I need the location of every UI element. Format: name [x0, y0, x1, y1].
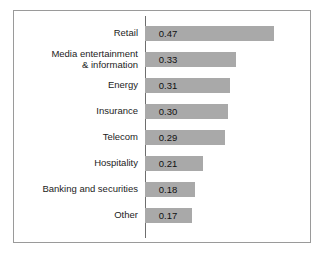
bar-track: 0.31 [143, 73, 310, 98]
bar-track: 0.18 [143, 177, 310, 202]
bar-value-label: 0.29 [145, 130, 191, 145]
bar-track: 0.47 [143, 21, 310, 46]
category-label: Insurance [14, 106, 143, 117]
bar-track: 0.29 [143, 125, 310, 150]
bar-value-label: 0.21 [145, 156, 191, 171]
bar-row: Banking and securities 0.18 [14, 177, 310, 202]
bar-row: Media entertainment & information 0.33 [14, 47, 310, 72]
bar-row: Hospitality 0.21 [14, 151, 310, 176]
bar-row: Other 0.17 [14, 203, 310, 228]
bar-track: 0.17 [143, 203, 310, 228]
category-label: Other [14, 210, 143, 221]
bar-value-label: 0.30 [145, 104, 191, 119]
category-label: Telecom [14, 132, 143, 143]
bar-row: Telecom 0.29 [14, 125, 310, 150]
bar-value-label: 0.18 [145, 182, 191, 197]
bar-row: Retail 0.47 [14, 21, 310, 46]
bar-value-label: 0.47 [145, 26, 191, 41]
chart-frame: Retail 0.47 Media entertainment & inform… [13, 10, 311, 243]
bar-value-label: 0.31 [145, 78, 191, 93]
bar-value-label: 0.33 [145, 52, 191, 67]
category-label: Banking and securities [14, 184, 143, 195]
bar-value-label: 0.17 [145, 208, 191, 223]
category-label: Hospitality [14, 158, 143, 169]
bar-track: 0.21 [143, 151, 310, 176]
bar-row: Insurance 0.30 [14, 99, 310, 124]
bar-track: 0.30 [143, 99, 310, 124]
category-label: Retail [14, 28, 143, 39]
bar-chart-plot-area: Retail 0.47 Media entertainment & inform… [14, 11, 310, 242]
bar-track: 0.33 [143, 47, 310, 72]
category-label: Energy [14, 80, 143, 91]
category-label: Media entertainment & information [14, 49, 143, 70]
bar-row: Energy 0.31 [14, 73, 310, 98]
